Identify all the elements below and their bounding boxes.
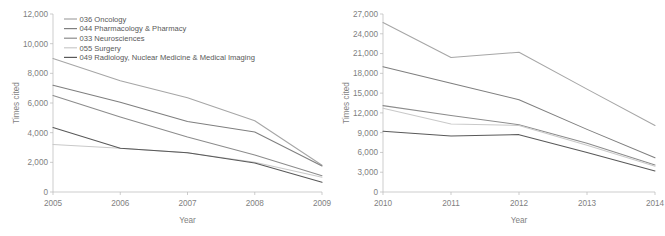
y-tick-label: 3,000 (358, 168, 379, 177)
legend-label-4: 049 Radiology, Nuclear Medicine & Medica… (80, 53, 255, 62)
y-tick-label: 18,000 (353, 69, 378, 78)
y-tick-label: 9,000 (358, 129, 379, 138)
y-tick-label: 6,000 (28, 99, 49, 108)
y-tick-label: 10,000 (23, 40, 48, 49)
x-tick-label: 2008 (246, 199, 265, 208)
x-tick-label: 2009 (313, 199, 332, 208)
x-tick-label: 2006 (111, 199, 130, 208)
chart-svg-left: 02,0004,0006,0008,00010,00012,0002005200… (0, 0, 332, 236)
series-line-4 (383, 131, 655, 171)
series-line-2 (383, 106, 655, 165)
y-tick-label: 27,000 (353, 10, 378, 19)
x-tick-label: 2011 (442, 199, 460, 208)
y-tick-label: 0 (373, 188, 378, 197)
series-line-4 (53, 127, 322, 182)
series-line-3 (53, 145, 322, 178)
legend-label-2: 033 Neurosciences (80, 34, 145, 43)
y-tick-label: 12,000 (23, 10, 48, 19)
chart-svg-right: 03,0006,0009,00012,00015,00018,00021,000… (333, 0, 665, 236)
y-tick-label: 12,000 (353, 109, 378, 118)
x-tick-label: 2005 (44, 199, 63, 208)
y-tick-label: 8,000 (28, 69, 49, 78)
series-line-1 (383, 67, 655, 158)
x-tick-label: 2013 (578, 199, 597, 208)
y-tick-label: 6,000 (358, 148, 379, 157)
legend-label-0: 036 Oncology (80, 15, 127, 24)
y-tick-label: 24,000 (353, 30, 378, 39)
y-tick-label: 15,000 (353, 89, 378, 98)
legend-label-1: 044 Pharmacology & Pharmacy (80, 24, 187, 33)
y-axis-title: Times cited (342, 82, 351, 124)
series-line-0 (383, 23, 655, 126)
x-axis-title: Year (511, 216, 528, 225)
y-tick-label: 21,000 (353, 49, 378, 58)
x-tick-label: 2014 (646, 199, 665, 208)
chart-panel-left: 02,0004,0006,0008,00010,00012,0002005200… (0, 0, 332, 236)
series-line-3 (383, 108, 655, 166)
x-tick-label: 2010 (374, 199, 393, 208)
y-tick-label: 4,000 (28, 129, 49, 138)
x-axis-title: Year (179, 216, 196, 225)
chart-panel-right: 03,0006,0009,00012,00015,00018,00021,000… (333, 0, 665, 236)
x-tick-label: 2012 (510, 199, 529, 208)
y-tick-label: 0 (43, 188, 48, 197)
series-line-0 (53, 59, 322, 166)
dual-line-chart-figure: 02,0004,0006,0008,00010,00012,0002005200… (0, 0, 665, 236)
series-line-2 (53, 96, 322, 176)
legend-label-3: 055 Surgery (80, 44, 122, 53)
x-tick-label: 2007 (178, 199, 197, 208)
y-axis-title: Times cited (12, 82, 21, 124)
y-tick-label: 2,000 (28, 158, 49, 167)
